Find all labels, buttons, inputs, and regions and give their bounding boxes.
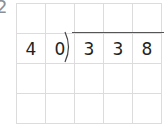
grid-cell[interactable] [75,4,104,34]
grid-cell[interactable] [104,94,133,124]
long-division-grid: 4 0 3 3 8 [16,3,162,124]
grid-cell[interactable] [46,94,75,124]
grid-cell[interactable] [133,4,162,34]
divisor-digit: 4 [17,34,46,64]
grid-cell[interactable] [133,64,162,94]
division-bracket-icon [63,31,73,63]
grid-cell[interactable] [46,4,75,34]
grid-cell[interactable] [104,64,133,94]
grid-cell[interactable] [17,4,46,34]
dividend-digit: 3 [75,34,104,64]
grid-cell[interactable] [17,94,46,124]
division-bar [72,32,164,33]
grid-cell[interactable] [75,94,104,124]
grid-cell[interactable] [133,94,162,124]
dividend-digit: 3 [104,34,133,64]
grid-cell[interactable] [104,4,133,34]
grid-cell[interactable] [46,64,75,94]
dividend-digit: 8 [133,34,162,64]
grid-cell[interactable] [75,64,104,94]
grid-cell[interactable] [17,64,46,94]
problem-number: 2 [0,0,7,17]
